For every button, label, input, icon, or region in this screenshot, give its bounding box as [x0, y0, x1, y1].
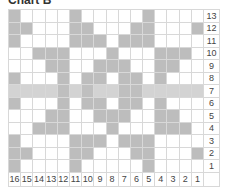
grid-cell: [107, 60, 119, 73]
grid-cell: [192, 60, 204, 73]
grid-cell: [58, 110, 70, 123]
grid-cell: [131, 35, 143, 48]
grid-cell: [46, 160, 58, 173]
grid-cell: [58, 73, 70, 86]
grid-cell: [107, 35, 119, 48]
grid-cell: [143, 48, 155, 61]
grid-cell: [192, 35, 204, 48]
grid-cell: [33, 110, 45, 123]
grid-cell: [58, 10, 70, 23]
row-label: 1: [204, 160, 220, 173]
grid-cell: [155, 123, 167, 136]
grid-cell: [107, 148, 119, 161]
grid-cell: [155, 73, 167, 86]
grid-cell: [143, 73, 155, 86]
grid-cell: [46, 35, 58, 48]
grid-cell: [131, 110, 143, 123]
grid-cell: [119, 98, 131, 111]
grid-cell: [58, 98, 70, 111]
grid-cell: [82, 148, 94, 161]
grid-cell: [21, 110, 33, 123]
column-label: 16: [9, 173, 21, 187]
grid-cell: [94, 135, 106, 148]
grid-cell: [107, 73, 119, 86]
grid-cell: [131, 160, 143, 173]
column-label: 2: [180, 173, 192, 187]
grid-cell: [82, 73, 94, 86]
column-label: 1: [192, 173, 204, 187]
grid-cell: [33, 48, 45, 61]
grid-cell: [58, 160, 70, 173]
grid-cell: [33, 23, 45, 36]
grid-cell: [70, 160, 82, 173]
grid-cell: [167, 73, 179, 86]
grid-cell: [180, 98, 192, 111]
grid-cell: [107, 160, 119, 173]
grid-cell: [70, 35, 82, 48]
grid-cell: [70, 10, 82, 23]
grid-cell: [167, 23, 179, 36]
grid-cell: [107, 10, 119, 23]
grid-cell: [58, 23, 70, 36]
grid-cell: [9, 60, 21, 73]
grid-cell: [94, 60, 106, 73]
column-label: 14: [33, 173, 45, 187]
grid-cell: [107, 123, 119, 136]
grid-cell: [119, 48, 131, 61]
grid-cell: [94, 35, 106, 48]
grid-cell: [143, 35, 155, 48]
column-label: 8: [107, 173, 119, 187]
grid-cell: [180, 23, 192, 36]
grid-cell: [119, 123, 131, 136]
grid-cell: [33, 60, 45, 73]
grid-cell: [82, 135, 94, 148]
grid-cell: [82, 160, 94, 173]
grid-cell: [131, 85, 143, 98]
grid-cell: [9, 123, 21, 136]
grid-cell: [131, 48, 143, 61]
grid-cell: [107, 110, 119, 123]
grid-cell: [180, 123, 192, 136]
row-label: 13: [204, 10, 220, 23]
grid-cell: [70, 85, 82, 98]
grid-cell: [155, 48, 167, 61]
column-label: 15: [21, 173, 33, 187]
grid-cell: [21, 60, 33, 73]
grid-cell: [9, 135, 21, 148]
grid-cell: [58, 60, 70, 73]
grid-cell: [70, 23, 82, 36]
grid-cell: [143, 160, 155, 173]
grid-cell: [82, 10, 94, 23]
grid-cell: [9, 160, 21, 173]
grid-cell: [192, 73, 204, 86]
grid-cell: [167, 135, 179, 148]
grid-cell: [143, 23, 155, 36]
grid-cell: [94, 10, 106, 23]
grid-cell: [131, 73, 143, 86]
grid-cell: [107, 135, 119, 148]
grid-cell: [155, 98, 167, 111]
grid-cell: [167, 123, 179, 136]
grid-cell: [131, 60, 143, 73]
grid-cell: [58, 48, 70, 61]
grid-cell: [192, 110, 204, 123]
grid-cell: [119, 23, 131, 36]
row-label: 6: [204, 98, 220, 111]
grid-cell: [180, 85, 192, 98]
grid-cell: [70, 73, 82, 86]
grid-cell: [180, 60, 192, 73]
grid-cell: [180, 148, 192, 161]
column-label: 7: [119, 173, 131, 187]
grid-cell: [131, 98, 143, 111]
grid-cell: [70, 60, 82, 73]
grid-cell: [58, 123, 70, 136]
grid-cell: [94, 48, 106, 61]
grid-cell: [82, 110, 94, 123]
grid-cell: [167, 60, 179, 73]
grid-cell: [46, 60, 58, 73]
grid-cell: [94, 23, 106, 36]
grid-cell: [46, 10, 58, 23]
grid-cell: [167, 110, 179, 123]
grid-cell: [9, 23, 21, 36]
grid-cell: [46, 98, 58, 111]
